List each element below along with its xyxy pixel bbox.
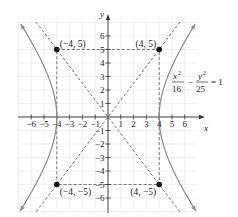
hyperbola-chart: (−4, 5)(4, 5)(−4, −5)(4, −5) −6−5−4−3−2−… xyxy=(0,0,238,217)
y-tick-label: −4 xyxy=(95,166,105,176)
x-axis-label: x xyxy=(203,123,208,133)
y-tick-label: 1 xyxy=(100,99,105,109)
corner-point xyxy=(156,182,162,188)
eq-term1-exp: 2 xyxy=(178,70,181,76)
x-tick-label: 6 xyxy=(183,119,188,129)
y-tick-label: −2 xyxy=(95,139,105,149)
point-label: (−4, 5) xyxy=(60,39,86,50)
hyperbola-left-branch xyxy=(20,24,57,211)
corner-point xyxy=(54,182,60,188)
y-tick-label: 2 xyxy=(100,85,105,95)
eq-term2-num: y xyxy=(197,71,202,81)
x-tick-label: 2 xyxy=(131,119,136,129)
y-tick-label: −1 xyxy=(95,126,105,136)
eq-term1-den: 16 xyxy=(172,84,182,94)
x-tick-label: −2 xyxy=(78,119,88,129)
eq-term2-den: 25 xyxy=(196,84,206,94)
x-axis-arrow-icon xyxy=(199,115,205,119)
y-tick-label: 4 xyxy=(100,58,105,68)
y-axis-label: y xyxy=(99,9,104,19)
x-tick-label: 3 xyxy=(144,119,149,129)
y-tick-label: 6 xyxy=(100,31,105,41)
y-tick-label: −3 xyxy=(95,153,105,163)
eq-term2-exp: 2 xyxy=(203,70,206,76)
y-tick-label: −5 xyxy=(95,180,105,190)
y-tick-label: 5 xyxy=(100,45,105,55)
x-tick-label: −4 xyxy=(52,119,62,129)
x-tick-label: −6 xyxy=(26,119,36,129)
y-tick-label: 3 xyxy=(100,72,105,82)
eq-term1-num: x xyxy=(172,71,177,81)
y-axis-arrow-icon xyxy=(106,14,110,20)
grid xyxy=(18,20,197,213)
x-tick-label: 5 xyxy=(170,119,175,129)
x-tick-label: −3 xyxy=(65,119,75,129)
axes xyxy=(18,14,205,213)
equation-label: x 2 16 − y 2 25 = 1 xyxy=(172,70,223,94)
point-label: (4, −5) xyxy=(130,187,156,198)
x-tick-label: 1 xyxy=(119,119,124,129)
y-tick-label: −6 xyxy=(95,193,105,203)
corner-point xyxy=(54,47,60,53)
point-label: (4, 5) xyxy=(136,39,157,50)
eq-minus: − xyxy=(188,77,193,87)
hyperbola-right-branch xyxy=(159,24,196,211)
point-label: (−4, −5) xyxy=(60,187,91,198)
x-tick-label: 4 xyxy=(157,119,162,129)
corner-point xyxy=(156,47,162,53)
chart-svg: (−4, 5)(4, 5)(−4, −5)(4, −5) −6−5−4−3−2−… xyxy=(0,0,238,217)
x-tick-label: −5 xyxy=(39,119,49,129)
eq-rhs: = 1 xyxy=(211,77,223,87)
